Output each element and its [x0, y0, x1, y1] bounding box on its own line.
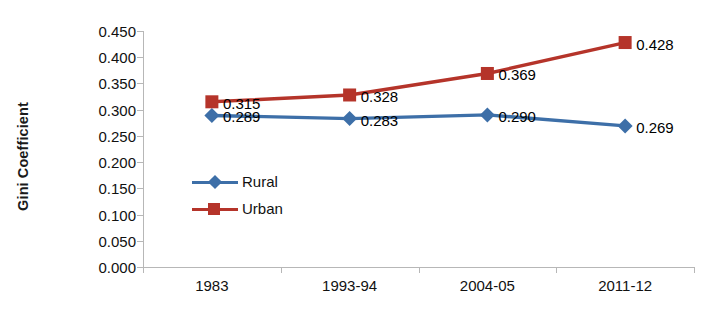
- series-line-urban: [212, 43, 625, 102]
- legend-label: Rural: [242, 173, 278, 190]
- series-marker-rural: [204, 108, 219, 123]
- series-marker-urban: [205, 95, 218, 108]
- series-marker-urban: [481, 67, 494, 80]
- legend-swatch-rural: [192, 174, 238, 190]
- data-label-urban: 0.315: [223, 95, 261, 110]
- data-label-urban: 0.428: [636, 36, 674, 51]
- legend-square-marker-icon: [208, 203, 220, 215]
- legend-diamond-marker-icon: [208, 174, 222, 188]
- series-plot: [0, 0, 726, 313]
- series-marker-rural: [618, 118, 633, 133]
- x-axis-tick-label: 2011-12: [555, 277, 695, 294]
- legend-swatch-urban: [192, 201, 238, 217]
- data-label-rural: 0.283: [361, 112, 399, 127]
- legend-item-rural[interactable]: Rural: [192, 168, 342, 195]
- data-label-rural: 0.269: [636, 119, 674, 134]
- legend-item-urban[interactable]: Urban: [192, 195, 342, 222]
- chart-container: Gini Coefficient 0.4500.4000.3500.3000.2…: [0, 0, 726, 313]
- x-axis-tick-label: 1983: [142, 277, 282, 294]
- x-axis-tick-label: 1993-94: [280, 277, 420, 294]
- series-marker-rural: [480, 107, 495, 122]
- series-marker-urban: [619, 36, 632, 49]
- data-label-rural: 0.290: [498, 108, 536, 123]
- series-marker-rural: [342, 111, 357, 126]
- chart-legend: RuralUrban: [192, 168, 342, 222]
- series-line-rural: [212, 115, 625, 126]
- legend-label: Urban: [242, 200, 283, 217]
- data-label-urban: 0.328: [361, 88, 399, 103]
- series-marker-urban: [343, 88, 356, 101]
- x-axis-tick-label: 2004-05: [417, 277, 557, 294]
- data-label-urban: 0.369: [498, 67, 536, 82]
